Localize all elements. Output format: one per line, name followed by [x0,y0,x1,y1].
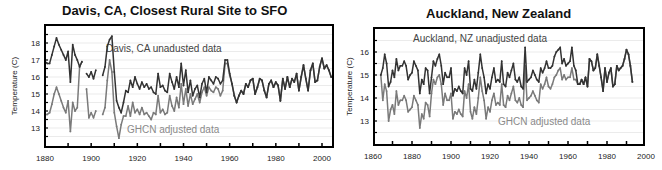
data-point [405,65,407,67]
data-point [136,108,138,110]
data-point [312,63,314,65]
data-point [458,109,460,111]
data-point [398,104,400,106]
x-tick-label: 2000 [313,154,331,163]
data-point [518,97,520,99]
data-point [67,51,69,53]
data-point [481,67,483,69]
data-point [192,103,194,105]
data-point [495,81,497,83]
data-point [289,86,291,88]
y-axis-label: Temperature (C) [10,57,19,116]
data-point [160,86,162,88]
data-point [559,47,561,49]
data-point [431,93,433,95]
unadjusted-label: Davis, CA unadusted data [106,43,222,54]
data-point [268,83,270,85]
data-point [474,79,476,81]
data-point [213,91,215,93]
data-point [109,39,111,41]
data-point [477,72,479,74]
data-point [183,85,185,87]
x-tick-label: 1960 [559,152,577,161]
data-point [532,90,534,92]
data-point [384,53,386,55]
data-point [571,47,573,49]
data-point [472,90,474,92]
data-point [587,86,589,88]
data-point [180,63,182,65]
data-point [454,88,456,90]
y-tick-label: 16 [360,48,369,57]
data-point [538,81,540,83]
data-point [291,78,293,80]
data-point [150,119,152,121]
data-point [476,88,478,90]
data-point [444,72,446,74]
data-point [409,109,411,111]
data-point [86,88,88,90]
data-point [123,115,125,117]
x-tick-label: 1980 [267,154,285,163]
data-point [127,91,129,93]
data-point [134,112,136,114]
data-point [187,105,189,107]
x-tick-label: 1900 [442,152,460,161]
data-point [388,86,390,88]
data-point [153,91,155,93]
data-point [210,80,212,82]
data-point [433,60,435,62]
data-point [589,58,591,60]
y-tick-label: 15 [360,71,369,80]
data-point [407,111,409,113]
data-point [462,116,464,118]
data-point [298,90,300,92]
data-point [217,88,219,90]
data-point [164,90,166,92]
data-point [116,125,118,127]
data-point [462,93,464,95]
data-point [106,80,108,82]
data-point [536,79,538,81]
data-point [440,65,442,67]
data-point [448,76,450,78]
data-point [155,114,157,116]
data-point [561,79,563,81]
data-point [282,78,284,80]
data-point [427,70,429,72]
data-point [222,90,224,92]
data-point [250,80,252,82]
data-point [546,76,548,78]
data-point [460,113,462,115]
data-point [499,81,501,83]
data-point [130,115,132,117]
data-point [501,83,503,85]
data-point [548,67,550,69]
data-point [423,118,425,120]
y-tick-label: 17 [31,56,40,65]
data-point [206,95,208,97]
data-point [229,73,231,75]
data-point [111,35,113,37]
data-point [392,70,394,72]
data-point [581,79,583,81]
data-point [169,95,171,97]
data-point [273,86,275,88]
data-point [171,105,173,107]
data-point [176,97,178,99]
data-point [178,86,180,88]
data-point [146,83,148,85]
data-point [199,97,201,99]
data-point [201,83,203,85]
data-point [130,80,132,82]
data-point [454,111,456,113]
data-point [614,83,616,85]
data-point [468,60,470,62]
data-point [148,88,150,90]
data-point [495,104,497,106]
data-point [160,112,162,114]
data-point [76,107,78,109]
data-point [450,93,452,95]
data-point [440,83,442,85]
data-point [63,54,65,56]
